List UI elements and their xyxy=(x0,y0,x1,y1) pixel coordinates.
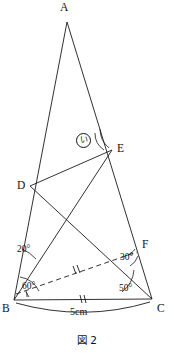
figure-caption: 図 2 xyxy=(0,332,174,347)
vertex-label-d: D xyxy=(17,180,25,192)
angle-label-60: 60° xyxy=(22,282,35,292)
vertex-label-c: C xyxy=(157,303,165,315)
angle-label-50: 50° xyxy=(119,284,132,294)
tick-b-angle xyxy=(26,292,29,297)
side-ab xyxy=(14,22,67,300)
geometry-drawing xyxy=(0,0,174,356)
vertex-label-f: F xyxy=(142,239,148,251)
arc-angle-marker xyxy=(95,133,104,150)
length-label-bc: 5cm xyxy=(70,307,87,317)
angle-marker-i: い xyxy=(76,133,91,148)
tick-bf-2 xyxy=(77,265,80,273)
side-bc xyxy=(14,299,152,300)
tick-bc-1 xyxy=(80,295,82,303)
vertex-label-b: B xyxy=(2,303,10,315)
angle-label-30: 30° xyxy=(120,253,133,263)
geometry-figure: A B C D E F 20° 60° 50° 30° い 5cm 図 2 xyxy=(0,0,174,356)
vertex-label-a: A xyxy=(60,2,68,14)
segment-de xyxy=(30,150,112,186)
angle-label-20: 20° xyxy=(17,245,30,255)
segment-dc xyxy=(30,186,152,299)
tick-bf-1 xyxy=(73,266,76,274)
vertex-label-e: E xyxy=(117,143,124,155)
tick-bc-2 xyxy=(84,295,86,303)
side-ac xyxy=(67,22,152,299)
